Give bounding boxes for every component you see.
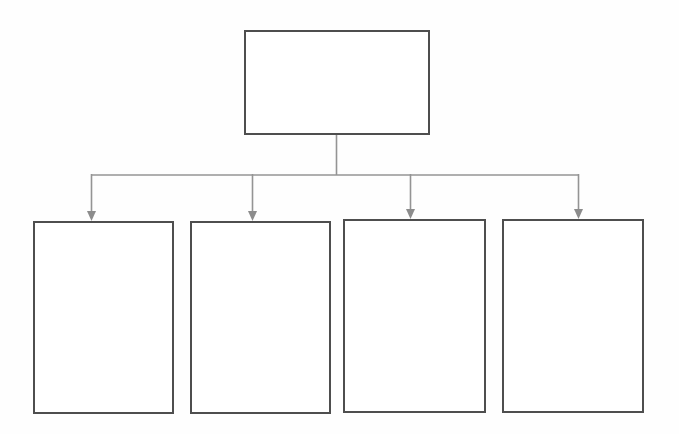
arrow-down-icon <box>406 209 415 219</box>
arrow-down-icon <box>248 211 257 221</box>
child-box-3 <box>343 219 486 413</box>
root-box <box>244 30 430 135</box>
diagram-canvas <box>0 0 679 434</box>
child-box-4 <box>502 219 644 413</box>
child-box-2 <box>190 221 331 414</box>
child-box-1 <box>33 221 174 414</box>
arrow-down-icon <box>87 211 96 221</box>
arrow-down-icon <box>574 209 583 219</box>
